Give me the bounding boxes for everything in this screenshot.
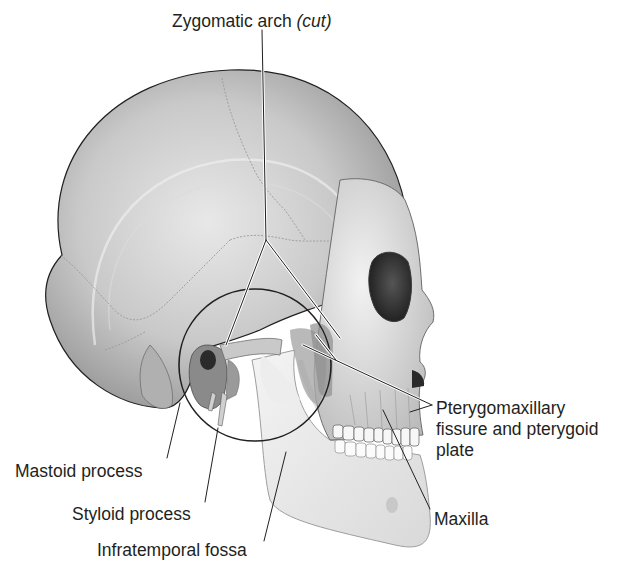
label-mastoid-process: Mastoid process: [15, 461, 142, 482]
label-maxilla: Maxilla: [434, 509, 488, 530]
label-styloid-process: Styloid process: [72, 504, 191, 525]
label-infratemporal-fossa: Infratemporal fossa: [97, 540, 247, 561]
label-pterygomaxillary-line-2: fissure and pterygoid: [436, 419, 598, 440]
label-zygomatic-arch-qualifier: (cut): [297, 11, 332, 31]
label-zygomatic-arch-text: Zygomatic arch: [172, 11, 292, 31]
label-pterygomaxillary: Pterygomaxillary fissure and pterygoid p…: [436, 398, 598, 461]
label-zygomatic-arch: Zygomatic arch (cut): [172, 11, 332, 32]
label-pterygomaxillary-line-1: Pterygomaxillary: [436, 398, 598, 419]
label-pterygomaxillary-line-3: plate: [436, 440, 598, 461]
skull-illustration: [0, 0, 642, 583]
